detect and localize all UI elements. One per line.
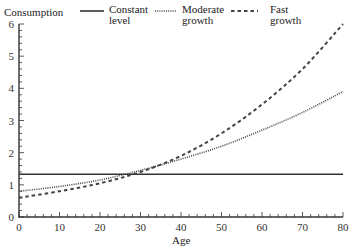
y-tick-label: 0 (9, 211, 15, 223)
legend-item-constant: Constant level (109, 4, 148, 26)
line-chart: 010203040506070800123456 (0, 0, 356, 250)
y-tick-label: 5 (9, 50, 15, 62)
y-tick-label: 4 (9, 82, 15, 94)
legend-item-fast: Fast growth (270, 4, 301, 26)
chart-series (19, 24, 343, 198)
x-tick-label: 70 (297, 221, 309, 233)
x-tick-label: 20 (95, 221, 107, 233)
x-tick-label: 30 (135, 221, 147, 233)
legend-label-line2: level (109, 15, 148, 26)
chart-axes: 010203040506070800123456 (9, 18, 350, 233)
y-tick-label: 1 (9, 179, 15, 191)
x-tick-label: 80 (338, 221, 350, 233)
legend-label-line2: growth (270, 15, 301, 26)
y-axis-title: Consumption (4, 7, 63, 18)
x-tick-label: 0 (16, 221, 22, 233)
x-tick-label: 40 (176, 221, 188, 233)
y-tick-label: 6 (9, 18, 15, 30)
x-tick-label: 50 (216, 221, 228, 233)
x-tick-label: 10 (54, 221, 66, 233)
series-moderate-growth (19, 92, 343, 192)
series-fast-growth (19, 24, 343, 198)
x-tick-label: 60 (257, 221, 269, 233)
y-tick-label: 3 (9, 115, 15, 127)
x-axis-title: Age (172, 235, 190, 246)
y-tick-label: 2 (9, 147, 15, 159)
legend-label-line2: growth (182, 15, 224, 26)
legend-item-moderate: Moderate growth (182, 4, 224, 26)
